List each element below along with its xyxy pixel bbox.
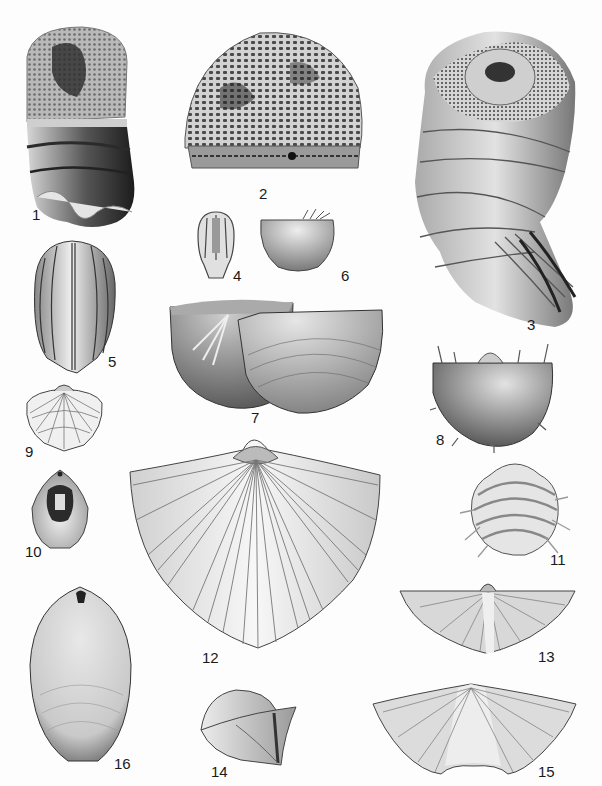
figure-2-honeycomb-colony bbox=[180, 28, 365, 178]
figure-label-4: 4 bbox=[233, 268, 241, 283]
figure-label-7: 7 bbox=[251, 410, 259, 425]
figure-label-14: 14 bbox=[211, 764, 228, 779]
figure-13-wide-hinged-spiriferid bbox=[400, 577, 575, 657]
figure-8-spiny-productid bbox=[428, 338, 558, 453]
figure-label-15: 15 bbox=[538, 764, 555, 779]
figure-label-5: 5 bbox=[108, 354, 116, 369]
fossil-plate: 1 2 bbox=[0, 0, 602, 786]
figure-12-large-spiriferid bbox=[128, 430, 383, 650]
figure-16-elongate-oval-shell bbox=[28, 585, 133, 765]
figure-label-8: 8 bbox=[436, 432, 444, 447]
figure-10-brachiopod-interior bbox=[30, 468, 90, 550]
figure-label-9: 9 bbox=[25, 444, 33, 459]
figure-9-ribbed-brachiopod bbox=[24, 383, 104, 453]
figure-7-paired-brachiopod-valves bbox=[168, 295, 386, 415]
figure-label-10: 10 bbox=[25, 544, 42, 559]
figure-label-6: 6 bbox=[341, 268, 349, 283]
figure-label-3: 3 bbox=[527, 317, 535, 332]
figure-1-coral-fragment bbox=[22, 22, 142, 232]
figure-11-banded-spiny-brachiopod bbox=[460, 455, 580, 560]
figure-label-13: 13 bbox=[538, 649, 555, 664]
figure-label-1: 1 bbox=[32, 207, 40, 222]
figure-6-spined-brachiopod bbox=[258, 205, 338, 275]
figure-label-16: 16 bbox=[114, 756, 131, 771]
figure-label-12: 12 bbox=[202, 650, 219, 665]
figure-label-2: 2 bbox=[259, 186, 267, 201]
figure-label-11: 11 bbox=[550, 552, 566, 567]
figure-14-brachiopod-lateral bbox=[196, 685, 296, 770]
figure-3-coiled-shell bbox=[405, 22, 585, 337]
